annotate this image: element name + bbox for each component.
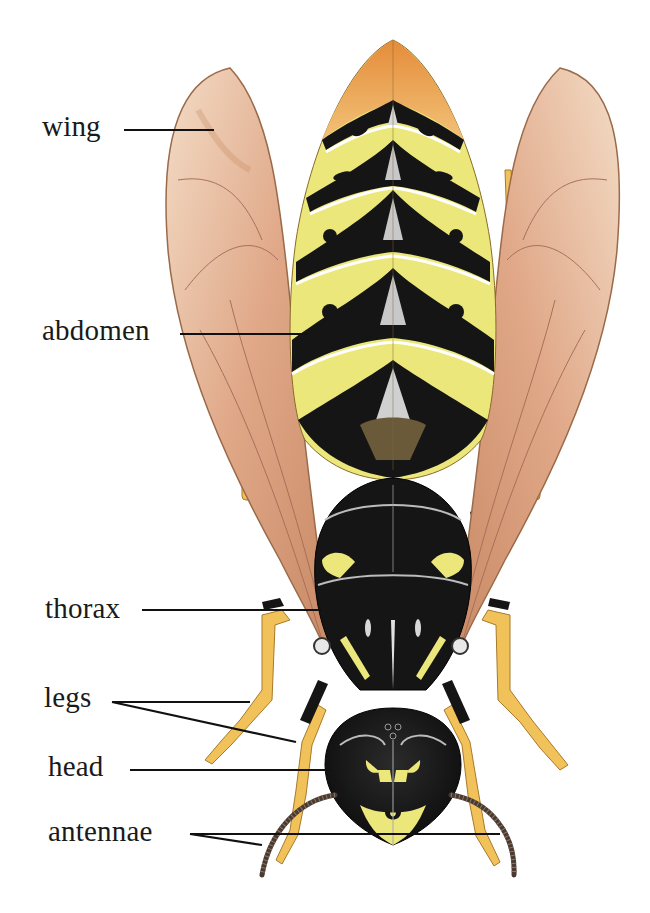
label-abdomen: abdomen xyxy=(42,316,150,345)
head-body xyxy=(325,708,461,845)
label-antennae: antennae xyxy=(48,817,153,846)
label-thorax: thorax xyxy=(45,594,120,623)
antennae-leader-line-2 xyxy=(190,834,262,845)
label-wing: wing xyxy=(42,112,101,141)
wasp-diagram: wing abdomen thorax legs head antennae xyxy=(0,0,650,913)
abdomen-body xyxy=(290,40,496,480)
legs-leader-line-2 xyxy=(112,702,296,742)
thorax-body xyxy=(314,478,471,690)
label-head: head xyxy=(48,752,104,781)
label-legs: legs xyxy=(44,683,92,712)
